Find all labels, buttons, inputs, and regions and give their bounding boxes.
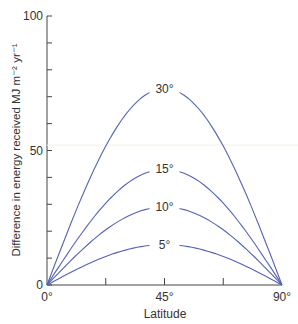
x-axis-label: Latitude [144,307,187,321]
curve-15 [47,169,282,285]
curve-label: 10° [155,200,173,214]
curve-label: 5° [159,238,171,252]
curve-30 [47,89,282,285]
x-tick-label: 0° [41,290,53,304]
y-tick-label: 50 [30,144,44,158]
y-tick-label: 100 [23,9,43,23]
x-tick-label: 45° [155,290,173,304]
curve-label: 15° [155,162,173,176]
curve-label: 30° [155,82,173,96]
x-tick-label: 90° [273,290,291,304]
y-axis-label: Difference in energy received MJ m⁻² yr⁻… [10,43,22,256]
chart: 0501000°45°90° 30°15°10°5° Latitude Diff… [0,0,298,324]
curves [47,89,282,285]
labels: 30°15°10°5° [150,81,180,252]
